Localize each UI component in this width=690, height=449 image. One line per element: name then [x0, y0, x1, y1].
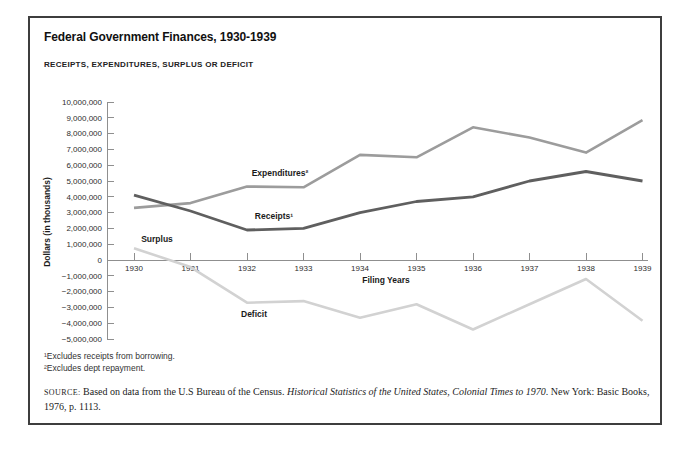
x-tick-label: 1932: [238, 264, 256, 273]
chart-card: 10,000,0009,000,0008,000,0007,000,0006,0…: [28, 16, 662, 425]
surplus-label: Surplus: [141, 234, 173, 244]
x-tick-label: 1939: [634, 264, 652, 273]
receipts-label: Receipts¹: [255, 211, 293, 221]
source-book-title: Historical Statistics of the United Stat…: [287, 386, 546, 397]
y-tick-label: −3,000,000: [62, 303, 103, 312]
expenditures-label: Expenditures²: [252, 168, 309, 178]
y-tick-label: 0: [98, 256, 103, 265]
source-text-before: Based on data from the U.S Bureau of the…: [83, 386, 287, 397]
y-tick-label: 2,000,000: [66, 224, 102, 233]
x-tick-label: 1934: [351, 264, 369, 273]
x-tick-label: 1936: [464, 264, 482, 273]
x-tick-label: 1938: [577, 264, 595, 273]
source-citation: SOURCE: Based on data from the U.S Burea…: [44, 385, 650, 413]
y-tick-label: 7,000,000: [66, 145, 102, 154]
x-axis-title: Filing Years: [362, 275, 410, 285]
x-tick-label: 1930: [125, 264, 143, 273]
series-line-receipts: [134, 172, 643, 231]
y-tick-label: 9,000,000: [66, 114, 102, 123]
y-tick-label: 5,000,000: [66, 177, 102, 186]
y-tick-label: −2,000,000: [62, 287, 103, 296]
x-tick-label: 1937: [521, 264, 539, 273]
chart-title: Federal Government Finances, 1930-1939: [44, 30, 276, 44]
series-line-expenditures: [134, 120, 643, 208]
x-tick-label: 1935: [408, 264, 426, 273]
deficit-label: Deficit: [241, 309, 267, 319]
footnotes: ¹Excludes receipts from borrowing. ²Excl…: [44, 350, 175, 374]
y-tick-label: 10,000,000: [62, 98, 103, 107]
y-axis-title: Dollars (in thousands): [42, 177, 52, 267]
source-label: SOURCE:: [44, 388, 81, 397]
y-tick-label: 3,000,000: [66, 208, 102, 217]
y-tick-label: 8,000,000: [66, 129, 102, 138]
y-tick-label: −4,000,000: [62, 319, 103, 328]
footnote-2: ²Excludes dept repayment.: [44, 362, 175, 374]
x-tick-label: 1933: [295, 264, 313, 273]
y-tick-label: 6,000,000: [66, 161, 102, 170]
y-tick-label: −5,000,000: [62, 335, 103, 344]
y-tick-label: 1,000,000: [66, 240, 102, 249]
footnote-1: ¹Excludes receipts from borrowing.: [44, 350, 175, 362]
y-tick-label: 4,000,000: [66, 193, 102, 202]
y-tick-label: −1,000,000: [62, 272, 103, 281]
chart-subtitle: RECEIPTS, EXPENDITURES, SURPLUS OR DEFIC…: [44, 60, 254, 69]
